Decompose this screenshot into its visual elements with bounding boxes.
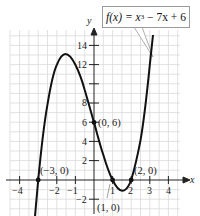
y-tick-label: −2 (76, 194, 87, 205)
equation-prefix: f(x) = (106, 11, 135, 23)
point-label-1-0: (1, 0) (97, 202, 120, 214)
equation-suffix: − 7x + 6 (144, 11, 186, 23)
x-tick-label: −4 (12, 185, 23, 196)
y-axis-arrow-icon (91, 28, 97, 35)
x-axis-arrow-icon (183, 177, 190, 183)
y-tick-label: 2 (82, 155, 87, 166)
y-tick-label: 4 (82, 136, 87, 147)
point-label-neg3-0: (−3, 0) (40, 165, 69, 177)
y-axis-label: y (86, 15, 92, 26)
point-marker (129, 178, 134, 183)
point-marker (36, 178, 41, 183)
y-tick-label: 14 (77, 40, 87, 51)
point-marker (110, 178, 115, 183)
x-tick-label: −2 (49, 185, 60, 196)
x-tick-labels: −4 −2 −1 1 2 3 4 (12, 185, 171, 196)
x-tick-label: 1 (110, 185, 115, 196)
point-marker (92, 120, 97, 125)
y-tick-label: 12 (77, 59, 87, 70)
equation-label: f(x) = x3 − 7x + 6 (102, 6, 190, 28)
point-label-2-0: (2, 0) (134, 165, 157, 177)
y-tick-label: 6 (82, 117, 87, 128)
x-tick-label: 3 (147, 185, 152, 196)
x-tick-label: 4 (166, 185, 171, 196)
function-graph: x y −4 −2 −1 1 2 3 4 14 12 8 6 4 2 −2 (−… (0, 0, 200, 216)
x-axis-label: x (189, 174, 195, 185)
point-label-0-6: (0, 6) (98, 117, 121, 129)
